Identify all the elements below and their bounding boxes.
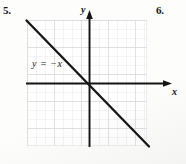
x-axis-label: x (172, 86, 177, 97)
y-axis (86, 10, 93, 147)
x-axis (26, 80, 172, 87)
axes-and-graph (0, 0, 186, 164)
y-axis-label: y (81, 4, 85, 15)
coordinate-plane (27, 20, 147, 146)
x-axis-arrow (163, 80, 172, 87)
exercise-figure-page: 5. 6. (0, 0, 186, 164)
y-axis-arrow (86, 10, 93, 19)
equation-annotation: y = −x (32, 58, 62, 69)
